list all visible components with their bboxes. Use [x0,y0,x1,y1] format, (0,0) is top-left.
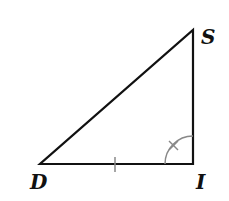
vertex-label-I: I [195,170,206,194]
triangle-diagram: D I S [0,0,229,201]
triangle-svg: D I S [0,0,229,201]
vertex-label-D: D [29,170,48,194]
vertex-label-S: S [201,25,215,49]
triangle-DIS [40,30,193,164]
